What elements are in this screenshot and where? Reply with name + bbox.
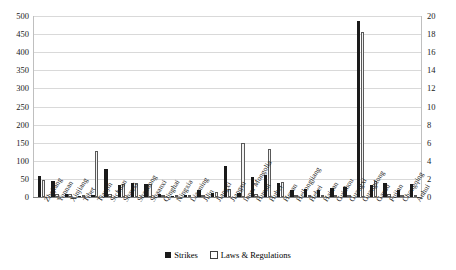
left-axis-tick-label: 350 (16, 66, 29, 75)
bar-chart: 050100150200250300350400450500 024681012… (0, 0, 456, 270)
bar-group (48, 16, 61, 197)
bar-group (168, 16, 181, 197)
bar-group (194, 16, 207, 197)
bar-group (287, 16, 300, 197)
bar-group (208, 16, 221, 197)
right-axis-tick-label: 16 (427, 48, 436, 57)
left-axis-tick-label: 500 (16, 12, 29, 21)
right-axis-tick-label: 18 (427, 30, 436, 39)
bar-group (75, 16, 88, 197)
left-axis-tick-label: 200 (16, 121, 29, 130)
chart-legend: StrikesLaws & Regulations (0, 250, 456, 260)
legend-item: Laws & Regulations (210, 250, 291, 260)
bar-strikes (357, 21, 360, 197)
bar-group (354, 16, 367, 197)
legend-swatch-icon (210, 251, 218, 259)
bar-laws-regulations (361, 32, 364, 197)
right-axis-tick-label: 8 (427, 121, 431, 130)
bar-strikes (38, 176, 41, 197)
left-axis-tick-label: 450 (16, 30, 29, 39)
bar-group (101, 16, 114, 197)
bar-group (394, 16, 407, 197)
bar-group (35, 16, 48, 197)
bar-group (274, 16, 287, 197)
bar-group (128, 16, 141, 197)
bar-group (221, 16, 234, 197)
right-axis-tick-label: 10 (427, 103, 436, 112)
left-axis-tick-label: 0 (25, 193, 29, 202)
bar-series-container (33, 16, 422, 197)
bar-group (380, 16, 393, 197)
right-axis-tick-label: 6 (427, 139, 431, 148)
right-axis-tick-label: 4 (427, 157, 431, 166)
right-axis-tick-label: 14 (427, 66, 436, 75)
left-axis-tick-label: 400 (16, 48, 29, 57)
left-axis-tick-label: 50 (21, 175, 30, 184)
right-axis-tick-label: 20 (427, 12, 436, 21)
bar-group (181, 16, 194, 197)
bar-group (88, 16, 101, 197)
legend-item: Strikes (165, 250, 198, 260)
legend-label: Laws & Regulations (221, 250, 291, 260)
right-axis-tick-label: 0 (427, 193, 431, 202)
bar-group (115, 16, 128, 197)
bar-group (155, 16, 168, 197)
bar-group (340, 16, 353, 197)
bar-group (62, 16, 75, 197)
right-axis-tick-label: 12 (427, 84, 436, 93)
legend-swatch-icon (165, 252, 171, 258)
left-axis-tick-label: 100 (16, 157, 29, 166)
legend-label: Strikes (174, 250, 198, 260)
right-axis-tick-label: 2 (427, 175, 431, 184)
bar-group (234, 16, 247, 197)
left-axis-tick-label: 250 (16, 103, 29, 112)
bar-group (327, 16, 340, 197)
bar-group (141, 16, 154, 197)
left-axis-tick-label: 300 (16, 84, 29, 93)
left-axis-tick-label: 150 (16, 139, 29, 148)
